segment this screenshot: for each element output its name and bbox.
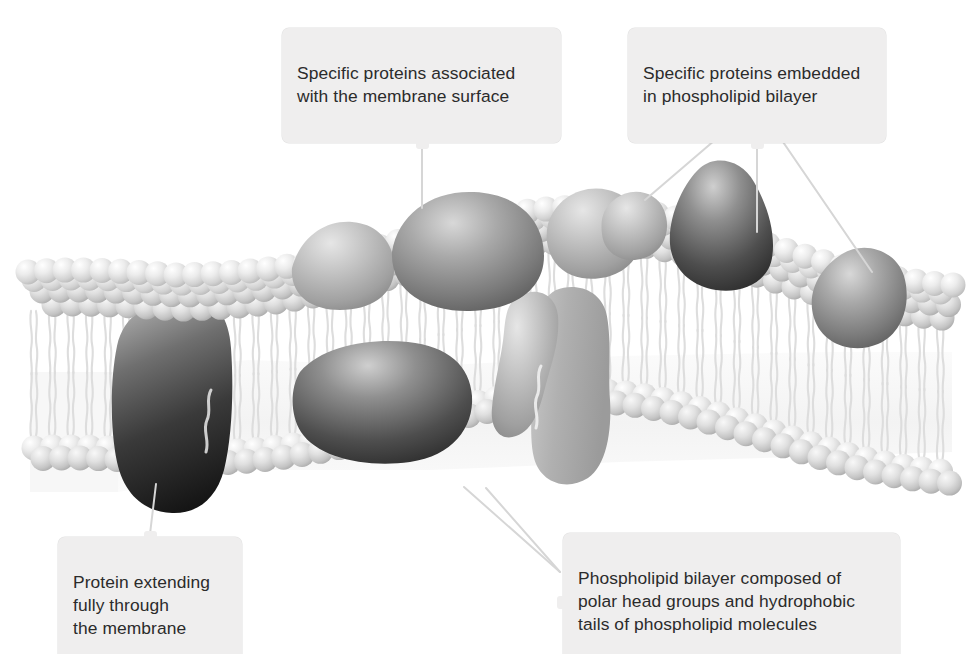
callout-phospholipid-bilayer[interactable]: Phospholipid bilayer composed of polar h… — [563, 533, 900, 654]
hydrophobic fatty acid tail — [30, 312, 37, 374]
callout-nub — [751, 136, 764, 149]
hydrophobic fatty acid tail — [67, 310, 74, 372]
callout-transmembrane-protein[interactable]: Protein extending fully through the memb… — [58, 537, 242, 654]
hydrophobic fatty acid tail — [289, 305, 296, 369]
callout-embedded-proteins[interactable]: Specific proteins embedded in phospholip… — [628, 28, 886, 143]
hydrophobic fatty acid tail — [641, 252, 648, 318]
embedded-protein-center — [293, 341, 473, 464]
callout-nub — [144, 531, 157, 544]
polar head group sphere — [937, 471, 962, 496]
callout-surface-proteins-text: Specific proteins associated with the me… — [297, 63, 515, 106]
callout-surface-proteins[interactable]: Specific proteins associated with the me… — [282, 28, 561, 143]
surface-protein-b — [392, 192, 544, 311]
hydrophobic fatty acid tail — [86, 310, 93, 373]
callout-phospholipid-bilayer-text: Phospholipid bilayer composed of polar h… — [578, 568, 855, 634]
hydrophobic fatty acid tail — [752, 281, 759, 348]
hydrophobic fatty acid tail — [659, 255, 666, 321]
transmembrane-protein — [112, 300, 233, 513]
surface-protein-a — [292, 222, 394, 310]
callout-nub — [416, 136, 429, 149]
hydrophobic fatty acid tail — [308, 302, 315, 366]
callout-nub — [557, 596, 570, 609]
callout-embedded-proteins-text: Specific proteins embedded in phospholip… — [643, 63, 860, 106]
hydrophobic fatty acid tail — [789, 292, 796, 359]
hydrophobic fatty acid tail — [770, 287, 777, 354]
membrane-diagram: Specific proteins associated with the me… — [0, 0, 975, 654]
hydrophobic fatty acid tail — [49, 311, 56, 373]
hydrophobic fatty acid tail — [104, 311, 111, 374]
leader-bilayer — [464, 487, 560, 572]
callout-transmembrane-protein-text: Protein extending fully through the memb… — [73, 572, 210, 638]
polar head group sphere — [941, 272, 966, 297]
